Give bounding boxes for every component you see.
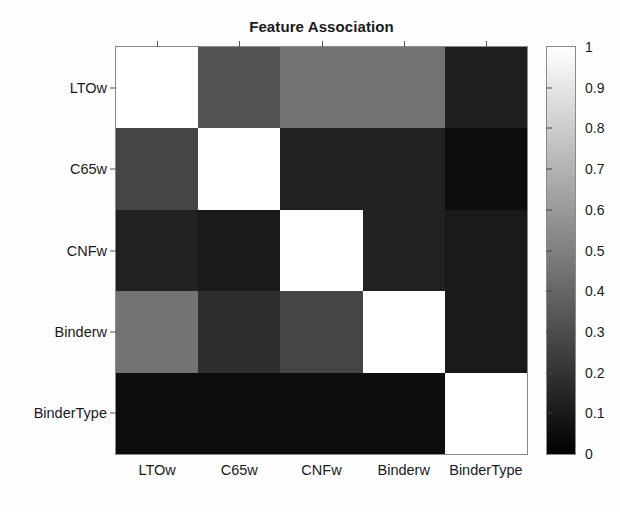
x-tick-label-c65w: C65w: [221, 462, 258, 478]
colorbar-tick-mark: [546, 250, 552, 251]
colorbar-tick-mark: [546, 87, 552, 88]
colorbar-tick-label-0: 0: [585, 446, 593, 462]
y-tick-label-c65w: C65w: [70, 161, 107, 177]
x-tick-mark: [404, 41, 405, 47]
colorbar-tick-mark: [546, 209, 552, 210]
heatmap-cell: [198, 128, 280, 209]
y-tick-label-cnfw: CNFw: [67, 243, 107, 259]
heatmap-cell: [116, 291, 198, 372]
y-tick-mark: [110, 413, 116, 414]
y-tick-mark: [110, 250, 116, 251]
heatmap-cell: [198, 291, 280, 372]
x-tick-mark: [157, 41, 158, 47]
heatmap-axes: LTOwC65wCNFwBinderwBinderType LTOwC65wCN…: [115, 46, 528, 455]
heatmap-cell: [280, 373, 362, 454]
colorbar-tick-mark: [546, 331, 552, 332]
heatmap-cell: [198, 373, 280, 454]
colorbar: 10.90.80.70.60.50.40.30.20.10: [546, 46, 576, 455]
colorbar-tick-label-0-1: 0.1: [585, 405, 604, 421]
heatmap-cell: [445, 210, 527, 291]
y-tick-label-bindertype: BinderType: [34, 405, 107, 421]
heatmap-cell: [363, 47, 445, 128]
colorbar-tick-label-0-4: 0.4: [585, 283, 604, 299]
x-tick-label-cnfw: CNFw: [301, 462, 341, 478]
colorbar-tick-mark: [546, 291, 552, 292]
heatmap-cell: [363, 373, 445, 454]
heatmap-cell: [445, 47, 527, 128]
colorbar-tick-mark: [546, 169, 552, 170]
heatmap-cell: [280, 210, 362, 291]
colorbar-tick-label-0-6: 0.6: [585, 202, 604, 218]
heatmap-cell: [363, 210, 445, 291]
y-tick-mark: [110, 169, 116, 170]
x-tick-label-bindertype: BinderType: [449, 462, 522, 478]
heatmap-cell: [363, 128, 445, 209]
colorbar-tick-mark: [546, 372, 552, 373]
y-tick-mark: [110, 87, 116, 88]
colorbar-tick-label-0-3: 0.3: [585, 324, 604, 340]
heatmap-cell: [116, 210, 198, 291]
heatmap-cell: [116, 47, 198, 128]
colorbar-tick-label-0-5: 0.5: [585, 243, 604, 259]
x-tick-mark: [322, 41, 323, 47]
colorbar-tick-mark: [546, 413, 552, 414]
colorbar-tick-label-0-2: 0.2: [585, 365, 604, 381]
heatmap-cell: [280, 291, 362, 372]
colorbar-tick-mark: [546, 128, 552, 129]
heatmap-cell: [445, 373, 527, 454]
colorbar-tick-label-0-9: 0.9: [585, 80, 604, 96]
figure-canvas: Feature Association LTOwC65wCNFwBinderwB…: [0, 0, 620, 512]
heatmap-cell: [116, 373, 198, 454]
page-title: Feature Association: [115, 18, 528, 35]
x-tick-mark: [239, 41, 240, 47]
colorbar-tick-label-0-7: 0.7: [585, 161, 604, 177]
heatmap-cell: [280, 128, 362, 209]
x-tick-mark: [486, 41, 487, 47]
heatmap-cell: [445, 291, 527, 372]
heatmap-cell: [198, 210, 280, 291]
heatmap-cell: [116, 128, 198, 209]
heatmap-cell: [363, 291, 445, 372]
heatmap-cell: [198, 47, 280, 128]
x-tick-label-ltow: LTOw: [138, 462, 175, 478]
heatmap-cell: [445, 128, 527, 209]
colorbar-tick-label-1: 1: [585, 39, 593, 55]
y-tick-mark: [110, 331, 116, 332]
y-tick-label-binderw: Binderw: [55, 324, 107, 340]
colorbar-tick-label-0-8: 0.8: [585, 120, 604, 136]
y-tick-label-ltow: LTOw: [70, 80, 107, 96]
x-tick-label-binderw: Binderw: [377, 462, 429, 478]
heatmap-grid: [116, 47, 527, 454]
heatmap-cell: [280, 47, 362, 128]
